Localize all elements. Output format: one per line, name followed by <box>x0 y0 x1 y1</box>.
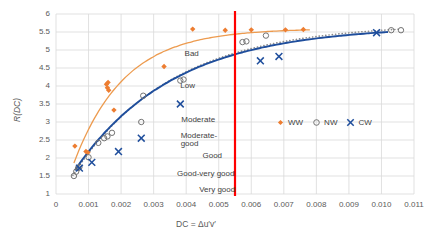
data-point-ww <box>111 107 116 112</box>
data-point-nw <box>263 33 268 38</box>
data-point-ww <box>72 143 77 148</box>
legend-label: NW <box>324 119 337 127</box>
data-point-cw <box>257 57 264 64</box>
annotation-moderate: Moderate- <box>181 131 217 140</box>
annotation-good: Good <box>202 151 222 160</box>
cross-marker-icon <box>346 118 355 127</box>
y-tick-label: 5.5 <box>16 27 50 36</box>
annotation-moderate: Moderate <box>181 115 215 124</box>
chart-container: R(DC) DC = Δu′v′ 11.522.533.544.555.56 0… <box>0 0 427 239</box>
x-tick-label: 0.004 <box>168 200 204 209</box>
y-tick-label: 4 <box>16 81 50 90</box>
x-tick-label: 0.008 <box>298 200 334 209</box>
diamond-marker-icon <box>276 118 285 127</box>
legend-label: WW <box>288 119 303 127</box>
x-tick-label: 0.001 <box>71 200 107 209</box>
legend-item-cw[interactable]: CW <box>346 118 371 127</box>
y-tick-label: 1 <box>16 189 50 198</box>
annotation-good-very-good: Good-very good <box>177 169 234 178</box>
x-tick-label: 0 <box>38 200 74 209</box>
chart-legend: WWNWCW <box>276 118 372 127</box>
x-tick-label: 0.005 <box>201 200 237 209</box>
data-point-nw <box>109 130 114 135</box>
legend-item-nw[interactable]: NW <box>312 118 337 127</box>
x-tick-label: 0.009 <box>331 200 367 209</box>
data-point-cw <box>138 135 145 142</box>
data-point-ww <box>161 64 166 69</box>
legend-label: CW <box>358 119 371 127</box>
y-tick-label: 2.5 <box>16 135 50 144</box>
y-tick-label: 2 <box>16 153 50 162</box>
y-tick-label: 4.5 <box>16 63 50 72</box>
x-tick-label: 0.011 <box>396 200 427 209</box>
annotation-good: good <box>181 139 199 148</box>
data-point-ww <box>190 26 195 31</box>
legend-item-ww[interactable]: WW <box>276 118 303 127</box>
trend-curves <box>73 29 401 175</box>
y-tick-label: 5 <box>16 45 50 54</box>
data-point-cw <box>276 53 283 60</box>
x-tick-label: 0.007 <box>266 200 302 209</box>
data-point-nw <box>244 39 249 44</box>
x-tick-label: 0.003 <box>136 200 172 209</box>
y-tick-label: 6 <box>16 9 50 18</box>
annotation-low: Low <box>180 81 195 90</box>
x-tick-label: 0.006 <box>233 200 269 209</box>
y-tick-label: 3 <box>16 117 50 126</box>
data-point-cw <box>88 159 95 166</box>
annotation-very-good: Very good <box>199 185 235 194</box>
x-tick-label: 0.002 <box>103 200 139 209</box>
data-point-ww <box>301 27 306 32</box>
circle-marker-icon <box>312 118 321 127</box>
annotation-bad: Bad <box>185 49 199 58</box>
y-tick-label: 3.5 <box>16 99 50 108</box>
y-tick-label: 1.5 <box>16 171 50 180</box>
x-tick-label: 0.010 <box>363 200 399 209</box>
x-axis-title: DC = Δu′v′ <box>176 219 216 229</box>
